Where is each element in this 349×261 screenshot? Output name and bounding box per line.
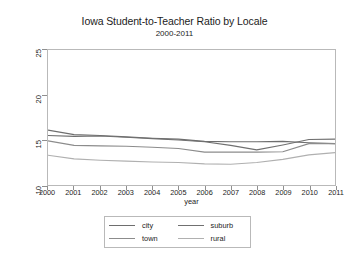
x-tick-label: 2011 [321, 188, 349, 197]
legend-label-rural: rural [211, 234, 226, 243]
legend-swatch-rural [178, 238, 204, 239]
legend-label-city: city [142, 221, 153, 230]
legend-item-city[interactable]: city [109, 219, 178, 232]
legend-swatch-suburb [178, 225, 204, 226]
chart-title: Iowa Student-to-Teacher Ratio by Locale [0, 15, 349, 27]
legend-swatch-town [109, 238, 135, 239]
chart-figure: Iowa Student-to-Teacher Ratio by Locale … [0, 0, 349, 261]
y-tick-label: 15 [34, 140, 44, 162]
y-tick-label: 25 [34, 49, 44, 71]
legend-item-suburb[interactable]: suburb [178, 219, 247, 232]
series-line-suburb [48, 136, 335, 150]
legend-label-suburb: suburb [211, 221, 234, 230]
x-axis-label: year [47, 197, 336, 206]
chart-legend: citysuburbtownrural [104, 216, 251, 248]
legend-item-town[interactable]: town [109, 232, 178, 245]
series-line-rural [48, 153, 335, 165]
plot-area [47, 49, 336, 186]
chart-subtitle: 2000-2011 [0, 29, 349, 38]
series-line-city [48, 130, 335, 143]
legend-item-rural[interactable]: rural [178, 232, 247, 245]
legend-swatch-city [109, 225, 135, 226]
plot-lines [48, 50, 335, 185]
y-tick-label: 20 [34, 95, 44, 117]
legend-label-town: town [142, 234, 158, 243]
